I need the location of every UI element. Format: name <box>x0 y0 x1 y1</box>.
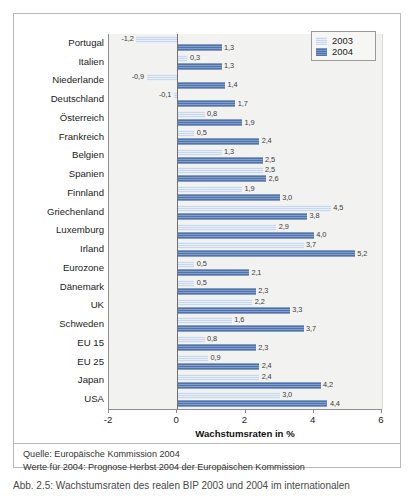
x-tick-label: -2 <box>104 414 113 425</box>
bar-row: -0,91,4 <box>109 72 382 91</box>
bar-2004-irland <box>177 250 354 257</box>
x-tick-label: 0 <box>174 414 179 425</box>
value-label-2003: 0,9 <box>210 353 220 362</box>
bar-row: 2,23,3 <box>109 297 382 316</box>
bar-2004-niederlande <box>177 82 225 89</box>
value-label-2004: 3,0 <box>282 193 292 202</box>
bar-row: 0,52,1 <box>109 259 382 278</box>
category-label-uk: UK <box>14 299 104 310</box>
value-label-2004: 4,4 <box>330 399 340 408</box>
bar-row: 2,52,6 <box>109 165 382 184</box>
bar-2004-italien <box>177 63 221 70</box>
value-label-2003: 1,3 <box>224 147 234 156</box>
value-label-2004: 2,3 <box>258 343 268 352</box>
x-tick-mark <box>108 409 109 413</box>
bar-2003-griechenland <box>177 205 331 212</box>
value-label-2004: 1,3 <box>224 43 234 52</box>
bar-row: 2,44,2 <box>109 372 382 391</box>
bar-2004-spanien <box>177 175 266 182</box>
category-label-belgien: Belgien <box>14 149 104 160</box>
bar-row: -0,11,7 <box>109 90 382 109</box>
x-tick-mark <box>313 409 314 413</box>
bar-2003-finnland <box>177 186 242 193</box>
value-label-2003: 0,3 <box>190 53 200 62</box>
bar-2004-eu-15 <box>177 344 255 351</box>
category-label-finnland: Finnland <box>14 187 104 198</box>
bar-2004-österreich <box>177 119 242 126</box>
value-label-2004: 2,4 <box>262 136 272 145</box>
value-label-2004: 2,4 <box>262 361 272 370</box>
category-label-spanien: Spanien <box>14 168 104 179</box>
category-label-usa: USA <box>14 393 104 404</box>
bar-row: 3,04,4 <box>109 390 382 409</box>
value-label-2003: 2,2 <box>255 297 265 306</box>
bar-2003-portugal <box>136 36 177 43</box>
bar-2004-finnland <box>177 194 279 201</box>
category-label-eu-15: EU 15 <box>14 337 104 348</box>
category-label-frankreich: Frankreich <box>14 131 104 142</box>
value-label-2003: 2,4 <box>262 372 272 381</box>
legend-swatch-2003-icon <box>316 37 327 45</box>
value-label-2004: 3,3 <box>292 305 302 314</box>
bar-row: 0,52,4 <box>109 128 382 147</box>
bar-2004-usa <box>177 400 327 407</box>
value-label-2004: 5,2 <box>357 249 367 258</box>
bar-2003-eu-25 <box>177 355 208 362</box>
value-label-2004: 1,4 <box>228 80 238 89</box>
figure-caption: Abb. 2.5: Wachstumsraten des realen BIP … <box>13 480 405 496</box>
bar-2003-eurozone <box>177 261 194 268</box>
x-tick-mark <box>381 409 382 413</box>
x-tick-mark <box>176 409 177 413</box>
value-label-2004: 1,3 <box>224 61 234 70</box>
x-axis-title: Wachstumsraten in % <box>108 428 382 439</box>
bar-2003-belgien <box>177 149 221 156</box>
bar-2003-spanien <box>177 167 262 174</box>
value-label-2003: 2,9 <box>279 222 289 231</box>
footer-source-line: Quelle: Europäische Kommission 2004 <box>23 448 393 461</box>
plot-area: -1,21,30,31,3-0,91,4-0,11,70,81,90,52,41… <box>108 34 382 410</box>
legend-label-2003: 2003 <box>332 35 353 46</box>
x-tick-label: 6 <box>378 414 383 425</box>
bar-2004-luxemburg <box>177 232 314 239</box>
value-label-2003: 0,8 <box>207 334 217 343</box>
value-label-2004: 2,3 <box>258 286 268 295</box>
bar-2004-belgien <box>177 157 262 164</box>
legend-item-2003: 2003 <box>316 35 370 46</box>
legend-item-2004: 2004 <box>316 46 370 57</box>
x-tick-label: 2 <box>242 414 247 425</box>
bar-row: 2,94,0 <box>109 222 382 241</box>
category-label-luxemburg: Luxemburg <box>14 224 104 235</box>
chart-legend: 2003 2004 <box>311 31 376 61</box>
chart-area: PortugalItalienNiederlandeDeutschlandÖst… <box>14 14 400 432</box>
bar-row: 1,63,7 <box>109 315 382 334</box>
category-label-eu-25: EU 25 <box>14 356 104 367</box>
bar-2003-uk <box>177 299 252 306</box>
value-label-2004: 4,2 <box>323 380 333 389</box>
legend-swatch-2004-icon <box>316 48 327 56</box>
bar-2003-luxemburg <box>177 224 276 231</box>
value-label-2003: 0,5 <box>197 128 207 137</box>
value-label-2003: 0,5 <box>197 259 207 268</box>
bar-2003-japan <box>177 374 259 381</box>
bar-2003-irland <box>177 242 303 249</box>
bar-row: 0,52,3 <box>109 278 382 297</box>
category-label-österreich: Österreich <box>14 112 104 123</box>
bar-row: 3,75,2 <box>109 240 382 259</box>
category-label-niederlande: Niederlande <box>14 74 104 85</box>
category-axis-labels: PortugalItalienNiederlandeDeutschlandÖst… <box>14 34 104 409</box>
category-label-italien: Italien <box>14 56 104 67</box>
bar-row: 1,93,0 <box>109 184 382 203</box>
value-label-2003: 4,5 <box>333 203 343 212</box>
bar-2003-schweden <box>177 317 232 324</box>
bar-2004-portugal <box>177 44 221 51</box>
x-tick-label: 4 <box>310 414 315 425</box>
bar-2004-deutschland <box>177 100 235 107</box>
bar-2003-dänemark <box>177 280 194 287</box>
bar-rows: -1,21,30,31,3-0,91,4-0,11,70,81,90,52,41… <box>109 34 382 409</box>
value-label-2004: 2,6 <box>268 174 278 183</box>
value-label-2003: 1,9 <box>245 184 255 193</box>
figure-frame: PortugalItalienNiederlandeDeutschlandÖst… <box>13 13 401 468</box>
category-label-eurozone: Eurozone <box>14 262 104 273</box>
bar-2004-eu-25 <box>177 363 259 370</box>
category-label-griechenland: Griechenland <box>14 206 104 217</box>
